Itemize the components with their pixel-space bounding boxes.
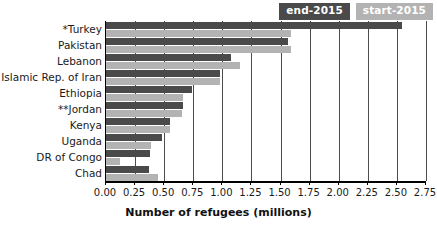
x-tick-label: 2.25 (356, 187, 378, 198)
x-tick (163, 181, 164, 185)
x-tick-label: 2.50 (385, 187, 407, 198)
bar-row (106, 102, 426, 118)
bar-end-2015 (106, 86, 192, 93)
bar-end-2015 (106, 134, 162, 141)
legend-item-start-2015: start-2015 (356, 3, 433, 20)
bar-start-2015 (106, 94, 183, 101)
x-tick-label: 1.50 (268, 187, 290, 198)
x-tick (192, 181, 193, 185)
x-tick-label: 2.00 (327, 187, 349, 198)
x-tick (396, 181, 397, 185)
bar-row (106, 22, 426, 38)
refugees-bar-chart: end-2015 start-2015 *TurkeyPakistanLeban… (0, 0, 437, 235)
y-axis-category-labels: *TurkeyPakistanLebanonIslamic Rep. of Ir… (0, 21, 102, 181)
bar-rows (106, 21, 426, 181)
bar-row (106, 118, 426, 134)
x-axis-line (105, 181, 426, 183)
category-label: Islamic Rep. of Iran (0, 72, 102, 83)
bar-start-2015 (106, 142, 151, 149)
category-label: *Turkey (0, 24, 102, 35)
bar-start-2015 (106, 110, 182, 117)
bar-start-2015 (106, 30, 291, 37)
bar-row (106, 38, 426, 54)
x-tick (309, 181, 310, 185)
x-tick (221, 181, 222, 185)
x-tick (338, 181, 339, 185)
chart-legend: end-2015 start-2015 (279, 3, 433, 20)
bar-row (106, 54, 426, 70)
x-tick (250, 181, 251, 185)
x-tick-label: 2.75 (414, 187, 436, 198)
bar-row (106, 150, 426, 166)
bar-end-2015 (106, 150, 150, 157)
x-tick-label: 1.00 (210, 187, 232, 198)
category-label: Uganda (0, 136, 102, 147)
x-tick-label: 0.50 (152, 187, 174, 198)
bar-start-2015 (106, 62, 240, 69)
x-tick (105, 181, 106, 185)
bar-start-2015 (106, 78, 220, 85)
x-tick (280, 181, 281, 185)
x-tick-label: 0.00 (94, 187, 116, 198)
bar-start-2015 (106, 126, 170, 133)
bar-start-2015 (106, 46, 291, 53)
bar-row (106, 134, 426, 150)
x-tick-label: 0.25 (123, 187, 145, 198)
x-tick (134, 181, 135, 185)
x-tick-label: 0.75 (181, 187, 203, 198)
category-label: Lebanon (0, 56, 102, 67)
bar-end-2015 (106, 118, 170, 125)
bar-start-2015 (106, 158, 120, 165)
legend-item-end-2015: end-2015 (279, 3, 350, 20)
bar-row (106, 166, 426, 182)
bar-end-2015 (106, 22, 402, 29)
bar-row (106, 86, 426, 102)
bar-row (106, 70, 426, 86)
gridline (426, 21, 427, 181)
x-tick (367, 181, 368, 185)
category-label: Chad (0, 168, 102, 179)
x-tick-label: 1.25 (239, 187, 261, 198)
category-label: Pakistan (0, 40, 102, 51)
category-label: DR of Congo (0, 152, 102, 163)
x-tick (425, 181, 426, 185)
bar-end-2015 (106, 38, 288, 45)
category-label: Kenya (0, 120, 102, 131)
bar-end-2015 (106, 166, 149, 173)
bar-end-2015 (106, 70, 220, 77)
category-label: **Jordan (0, 104, 102, 115)
plot-area (105, 21, 426, 181)
category-label: Ethiopia (0, 88, 102, 99)
bar-end-2015 (106, 54, 231, 61)
bar-end-2015 (106, 102, 183, 109)
bar-start-2015 (106, 174, 158, 181)
x-tick-label: 1.75 (297, 187, 319, 198)
x-axis-title: Number of refugees (millions) (0, 206, 437, 219)
